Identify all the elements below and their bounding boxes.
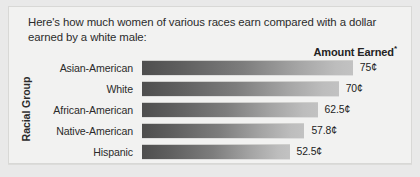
bar-track: 75¢: [142, 60, 420, 76]
bar-row: Asian-American75¢: [9, 60, 420, 81]
bar-category-label: African-American: [29, 104, 133, 116]
chart-headline: Here's how much women of various races e…: [28, 15, 378, 45]
bar-category-label: Asian-American: [29, 62, 133, 74]
bar-track: 52.5¢: [142, 144, 420, 160]
bar-track: 57.8¢: [142, 123, 420, 139]
bar-category-label: Native-American: [29, 125, 133, 137]
bar-row: Hispanic52.5¢: [9, 144, 420, 165]
bar-category-label: White: [29, 83, 133, 95]
bar: [142, 81, 339, 97]
bar-value-label: 75¢: [360, 62, 377, 73]
chart-figure: Here's how much women of various races e…: [0, 0, 420, 177]
chart-panel: Here's how much women of various races e…: [8, 6, 412, 164]
bar: [142, 123, 304, 139]
footnote-marker: *: [394, 44, 397, 53]
bar-row: African-American62.5¢: [9, 102, 420, 123]
bar-value-label: 70¢: [346, 83, 363, 94]
amount-earned-column-header: Amount Earned*: [313, 44, 397, 58]
bar-track: 62.5¢: [142, 102, 420, 118]
bar: [142, 144, 290, 160]
bar: [142, 102, 318, 118]
bar-row: White70¢: [9, 81, 420, 102]
bar-value-label: 62.5¢: [325, 104, 351, 115]
bar-value-label: 57.8¢: [311, 125, 337, 136]
headline-line-2: earned by a white male:: [28, 30, 378, 45]
headline-line-1: Here's how much women of various races e…: [28, 16, 376, 28]
bar-category-label: Hispanic: [29, 146, 133, 158]
bar-track: 70¢: [142, 81, 420, 97]
bar-value-label: 52.5¢: [297, 146, 323, 157]
bar: [142, 60, 353, 76]
bar-chart-plot: Asian-American75¢White70¢African-America…: [9, 60, 420, 165]
amount-earned-label: Amount Earned: [313, 46, 394, 58]
bar-row: Native-American57.8¢: [9, 123, 420, 144]
